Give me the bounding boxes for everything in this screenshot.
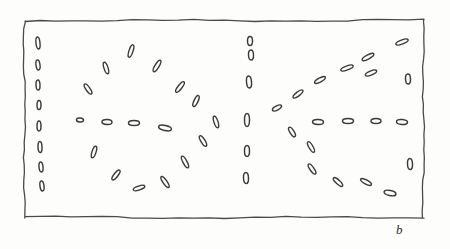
panel-label-b: b bbox=[396, 222, 403, 238]
mark-group-left-midline-row bbox=[76, 116, 219, 132]
director-mark bbox=[102, 119, 112, 124]
director-mark bbox=[76, 118, 83, 123]
director-mark bbox=[360, 177, 372, 186]
mark-group-centre-column bbox=[243, 37, 253, 184]
director-mark bbox=[248, 50, 253, 60]
director-mark bbox=[129, 121, 140, 126]
director-mark bbox=[287, 126, 296, 137]
director-mark bbox=[343, 119, 354, 124]
director-mark bbox=[35, 60, 40, 70]
mark-group-right-midline-row bbox=[312, 119, 407, 125]
director-mark bbox=[312, 119, 323, 124]
director-mark bbox=[111, 169, 122, 181]
mark-group-left-edge-column bbox=[35, 37, 44, 191]
director-mark bbox=[36, 80, 40, 90]
director-mark bbox=[133, 184, 146, 192]
director-mark bbox=[37, 121, 41, 131]
mark-group-lower-left-arc bbox=[90, 135, 208, 192]
mark-group-right-edge-column bbox=[405, 74, 412, 170]
director-mark bbox=[35, 37, 40, 49]
director-mark bbox=[272, 104, 283, 112]
director-mark bbox=[395, 38, 409, 46]
director-mark bbox=[340, 64, 354, 72]
director-mark bbox=[174, 81, 185, 94]
director-field-svg bbox=[0, 0, 450, 249]
director-mark bbox=[160, 176, 171, 189]
director-mark bbox=[405, 74, 410, 84]
director-mark bbox=[83, 83, 93, 95]
director-mark bbox=[39, 181, 44, 191]
director-mark bbox=[307, 163, 317, 175]
director-marks bbox=[35, 37, 412, 197]
director-mark bbox=[306, 141, 315, 153]
director-mark bbox=[212, 116, 220, 129]
director-mark bbox=[332, 176, 344, 187]
director-mark bbox=[396, 119, 407, 125]
director-mark bbox=[365, 69, 378, 77]
director-mark bbox=[127, 44, 135, 58]
director-mark bbox=[38, 162, 43, 172]
director-mark bbox=[180, 155, 190, 168]
director-mark bbox=[407, 158, 412, 169]
director-mark bbox=[152, 59, 162, 72]
mark-group-upper-right-ray bbox=[272, 38, 409, 112]
director-mark bbox=[102, 62, 110, 75]
mark-group-upper-left-arc bbox=[83, 44, 200, 107]
director-mark bbox=[246, 76, 252, 88]
director-mark bbox=[37, 101, 41, 110]
director-mark bbox=[314, 75, 326, 84]
director-mark bbox=[38, 141, 42, 152]
director-mark bbox=[292, 89, 304, 100]
director-mark bbox=[248, 37, 253, 46]
director-mark bbox=[371, 119, 381, 124]
director-mark bbox=[90, 146, 98, 159]
director-mark bbox=[198, 135, 208, 147]
director-mark bbox=[192, 95, 201, 108]
director-mark bbox=[245, 114, 250, 127]
figure-panel: b bbox=[0, 0, 450, 249]
director-mark bbox=[384, 189, 397, 196]
director-mark bbox=[361, 52, 374, 62]
director-mark bbox=[158, 124, 172, 132]
mark-group-lower-right-ray bbox=[287, 126, 396, 196]
director-mark bbox=[245, 146, 250, 157]
director-mark bbox=[243, 172, 248, 183]
